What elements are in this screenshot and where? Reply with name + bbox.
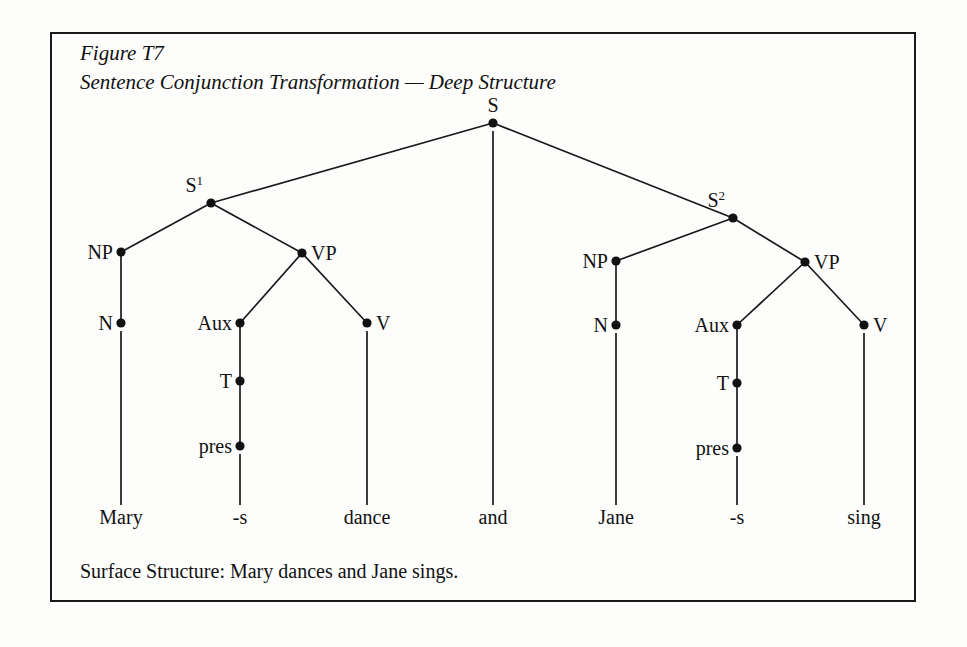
tree-node-dot-np2 xyxy=(611,256,620,265)
figure-page: Figure T7 Sentence Conjunction Transform… xyxy=(0,0,967,647)
tree-node-dot-t1 xyxy=(235,376,244,385)
tree-node-dot-s2 xyxy=(728,213,737,222)
tree-node-label-s1: S1 xyxy=(185,173,203,196)
tree-node-label-n1: N xyxy=(99,312,113,334)
tree-node-dot-v2 xyxy=(859,320,868,329)
tree-node-label-np1: NP xyxy=(87,241,113,263)
tree-node-dot-aux2 xyxy=(732,320,741,329)
tree-node-label-n2: N xyxy=(594,314,608,336)
tree-node-dot-np1 xyxy=(116,247,125,256)
tree-node-label-pres1: pres xyxy=(199,435,233,458)
tree-node-label-v2: V xyxy=(873,314,888,336)
tree-nodes: SS1S2NPVPNAuxVTpresNPVPNAuxVTpres xyxy=(87,94,888,460)
tree-node-label-t1: T xyxy=(220,370,232,392)
terminal-word-t-s1: -s xyxy=(233,506,248,528)
figure-title-line-1: Figure T7 xyxy=(79,41,165,65)
tree-node-dot-pres1 xyxy=(235,441,244,450)
tree-node-superscript-s1: 1 xyxy=(197,173,204,188)
terminal-word-t-s2: -s xyxy=(730,506,745,528)
tree-edge-s1-to-np1 xyxy=(121,203,211,252)
tree-node-label-np2: NP xyxy=(582,250,608,272)
tree-edge-s-to-s1 xyxy=(211,123,493,203)
terminal-word-t-and: and xyxy=(479,506,508,528)
tree-node-dot-pres2 xyxy=(732,443,741,452)
tree-node-label-aux2: Aux xyxy=(695,314,729,336)
tree-node-dot-n2 xyxy=(611,320,620,329)
tree-node-dot-n1 xyxy=(116,318,125,327)
tree-node-label-s: S xyxy=(487,94,498,116)
tree-node-dot-aux1 xyxy=(235,318,244,327)
tree-edge-s2-to-np2 xyxy=(616,218,733,261)
surface-structure-caption: Surface Structure: Mary dances and Jane … xyxy=(80,560,458,583)
tree-edge-s-to-s2 xyxy=(493,123,733,218)
tree-edge-vp1-to-aux1 xyxy=(240,253,302,323)
tree-node-label-s2: S2 xyxy=(707,188,725,211)
tree-node-dot-s1 xyxy=(206,198,215,207)
tree-node-dot-vp1 xyxy=(297,248,306,257)
terminal-word-t-jane: Jane xyxy=(598,506,634,528)
terminal-word-t-dance: dance xyxy=(344,506,391,528)
tree-node-superscript-s2: 2 xyxy=(719,188,726,203)
terminal-labels: Mary-sdanceandJane-ssing xyxy=(99,506,880,529)
terminal-word-t-sing: sing xyxy=(847,506,880,529)
tree-node-label-vp1: VP xyxy=(311,242,337,264)
tree-node-dot-t2 xyxy=(732,378,741,387)
terminal-word-t-mary: Mary xyxy=(99,506,142,529)
tree-edge-s1-to-vp1 xyxy=(211,203,302,253)
tree-edge-vp2-to-aux2 xyxy=(737,262,805,325)
tree-node-dot-vp2 xyxy=(800,257,809,266)
terminal-stems xyxy=(121,131,864,505)
tree-edge-s2-to-vp2 xyxy=(733,218,805,262)
syntax-tree-figure: Figure T7 Sentence Conjunction Transform… xyxy=(0,0,967,647)
tree-node-dot-s xyxy=(488,118,497,127)
tree-node-label-pres2: pres xyxy=(696,437,730,460)
tree-node-label-aux1: Aux xyxy=(198,312,232,334)
tree-node-dot-v1 xyxy=(362,318,371,327)
tree-node-label-t2: T xyxy=(717,372,729,394)
tree-node-label-v1: V xyxy=(376,312,391,334)
tree-node-label-vp2: VP xyxy=(814,251,840,273)
figure-subtitle-line-2: Sentence Conjunction Transformation — De… xyxy=(80,70,556,94)
